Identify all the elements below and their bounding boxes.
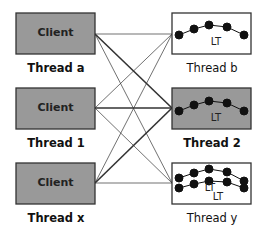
thread-label-b: Thread b (167, 61, 257, 75)
thread-label-2: Thread 2 (167, 136, 257, 150)
thread-label-x: Thread x (11, 211, 101, 225)
client-label-1: Client (16, 101, 95, 114)
connection-lines (95, 34, 172, 183)
thread-label-1: Thread 1 (11, 136, 101, 150)
client-label-a: Client (16, 26, 95, 39)
lt-label-b: LT (206, 36, 226, 47)
lt-label-2: LT (206, 112, 226, 123)
thread-label-a: Thread a (11, 61, 101, 75)
client-label-x: Client (16, 176, 95, 189)
lt-label-y-2: LT (208, 191, 228, 202)
thread-label-y: Thread y (167, 211, 257, 225)
